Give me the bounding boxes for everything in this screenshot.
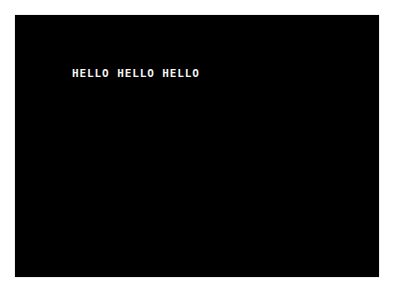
screen-output-text: HELLO HELLO HELLO [72, 68, 200, 80]
display-screen: HELLO HELLO HELLO [15, 15, 379, 277]
